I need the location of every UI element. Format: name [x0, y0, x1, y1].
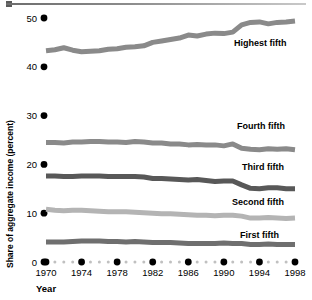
y-tick-dot: [41, 161, 48, 168]
x-minor-tick-dot: [169, 261, 172, 264]
x-minor-tick-dot: [107, 261, 110, 264]
x-minor-tick-dot: [267, 261, 270, 264]
y-tick-label: 10: [26, 208, 37, 219]
y-tick-label: 0: [32, 257, 37, 268]
x-minor-tick-dot: [178, 261, 181, 264]
x-minor-tick-dot: [160, 261, 163, 264]
y-axis-ticks: 01020304050: [26, 13, 47, 268]
x-minor-tick-dot: [240, 261, 243, 264]
y-tick-dot: [41, 15, 48, 22]
series-label: Highest fifth: [234, 38, 287, 48]
y-tick-label: 50: [26, 13, 37, 24]
x-tick-dot: [114, 259, 121, 266]
x-minor-tick-dot: [205, 261, 208, 264]
x-tick-dot: [43, 259, 50, 266]
x-minor-tick-dot: [133, 261, 136, 264]
x-tick-label: 1998: [284, 267, 305, 278]
y-tick-label: 30: [26, 110, 37, 121]
series-label: Second fifth: [232, 197, 284, 207]
x-minor-tick-dot: [285, 261, 288, 264]
y-tick-label: 40: [26, 61, 37, 72]
x-tick-label: 1978: [107, 267, 128, 278]
series-label: First fifth: [240, 230, 279, 240]
chart-canvas: Share of aggregate income (percent) 0102…: [0, 0, 312, 300]
series-line: [46, 176, 295, 189]
y-axis-title: Share of aggregate income (percent): [5, 120, 15, 268]
x-minor-tick-dot: [89, 261, 92, 264]
x-tick-label: 1970: [35, 267, 56, 278]
y-tick-dot: [41, 63, 48, 70]
y-tick-dot: [41, 112, 48, 119]
series-lines-group: [46, 21, 295, 245]
x-tick-dot: [256, 259, 263, 266]
series-line: [46, 209, 295, 218]
x-minor-tick-dot: [213, 261, 216, 264]
x-minor-tick-dot: [249, 261, 252, 264]
series-label: Third fifth: [242, 162, 284, 172]
x-tick-dot: [220, 259, 227, 266]
income-share-line-chart: Share of aggregate income (percent) 0102…: [0, 0, 312, 300]
x-minor-tick-dot: [62, 261, 65, 264]
x-minor-tick-dot: [276, 261, 279, 264]
x-axis-title-text: Year: [36, 283, 56, 294]
x-tick-label: 1982: [142, 267, 163, 278]
y-axis-title-text: Share of aggregate income (percent): [5, 120, 15, 268]
x-tick-dot: [292, 259, 299, 266]
series-line: [46, 141, 295, 149]
series-labels-group: Highest fifthFourth fifthThird fifthSeco…: [232, 38, 287, 240]
series-line: [46, 241, 295, 244]
x-minor-tick-dot: [142, 261, 145, 264]
x-minor-tick-dot: [125, 261, 128, 264]
x-tick-label: 1986: [178, 267, 199, 278]
top-divider-rule: [6, 3, 306, 5]
x-minor-tick-dot: [231, 261, 234, 264]
x-minor-tick-dot: [53, 261, 56, 264]
x-tick-dot: [185, 259, 192, 266]
x-tick-dot: [149, 259, 156, 266]
y-tick-label: 20: [26, 159, 37, 170]
x-tick-label: 1994: [249, 267, 270, 278]
x-tick-dot: [78, 259, 85, 266]
x-minor-tick-dot: [71, 261, 74, 264]
series-label: Fourth fifth: [237, 121, 285, 131]
x-axis-minor-dots: [53, 261, 287, 264]
x-tick-label: 1974: [71, 267, 92, 278]
x-tick-label: 1990: [213, 267, 234, 278]
x-minor-tick-dot: [98, 261, 101, 264]
x-minor-tick-dot: [196, 261, 199, 264]
